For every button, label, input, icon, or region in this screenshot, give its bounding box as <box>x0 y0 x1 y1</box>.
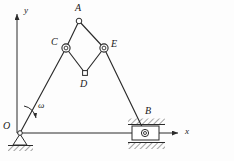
ground-hatch-O <box>8 146 33 151</box>
label-point-O: O <box>3 121 10 131</box>
joint-O-pin <box>18 131 23 136</box>
link-C-D <box>66 48 85 73</box>
label-point-D: D <box>80 79 87 89</box>
link-O-C <box>20 48 66 133</box>
joint-B-inner <box>144 132 147 135</box>
joint-D <box>83 71 88 76</box>
axes-group <box>17 14 178 133</box>
slider-assembly-B <box>128 119 165 150</box>
label-point-B: B <box>145 106 151 116</box>
guide-hatch-top <box>128 119 165 125</box>
label-omega: ω <box>38 101 44 110</box>
mechanism-diagram <box>0 0 234 161</box>
label-point-C: C <box>51 37 58 47</box>
linkage-bars <box>20 21 145 133</box>
pin-support-O <box>8 131 33 151</box>
guide-hatch-bottom <box>128 143 165 149</box>
link-D-E <box>85 48 104 73</box>
label-point-A: A <box>75 3 81 13</box>
label-point-E: E <box>111 39 117 49</box>
joint-A <box>76 18 82 24</box>
joint-C-inner <box>64 46 68 50</box>
label-axis-y: y <box>24 6 28 15</box>
link-A-E <box>79 21 104 48</box>
label-axis-x: x <box>185 127 189 136</box>
figure-canvas: A C E D B O x y ω <box>0 0 234 161</box>
joint-E-inner <box>102 46 106 50</box>
